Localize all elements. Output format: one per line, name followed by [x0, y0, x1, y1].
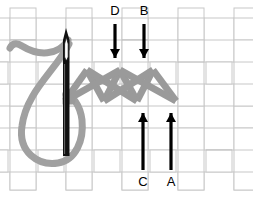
label-b: B — [135, 4, 153, 17]
sewing-needle — [63, 28, 70, 156]
diagram-canvas: D B C A — [0, 0, 253, 198]
label-a: A — [162, 175, 180, 188]
stitch-diagram-svg — [0, 0, 253, 198]
needle-eye — [65, 37, 69, 61]
label-c: C — [134, 175, 152, 188]
label-d: D — [106, 4, 124, 17]
